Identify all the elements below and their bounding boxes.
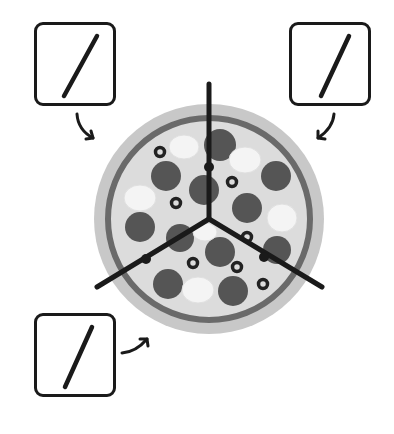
fraction-slash-icon [65, 327, 92, 387]
fraction-slash-icon [321, 36, 349, 96]
slice-label-box-top-right: / [289, 22, 371, 106]
fraction-slash-icon [64, 36, 97, 96]
arrow-bottom-left [122, 339, 147, 353]
slice-label-box-top-left: / [34, 22, 116, 106]
slice-label-box-bottom-left: / [34, 313, 116, 397]
arrow-top-right [318, 114, 334, 138]
